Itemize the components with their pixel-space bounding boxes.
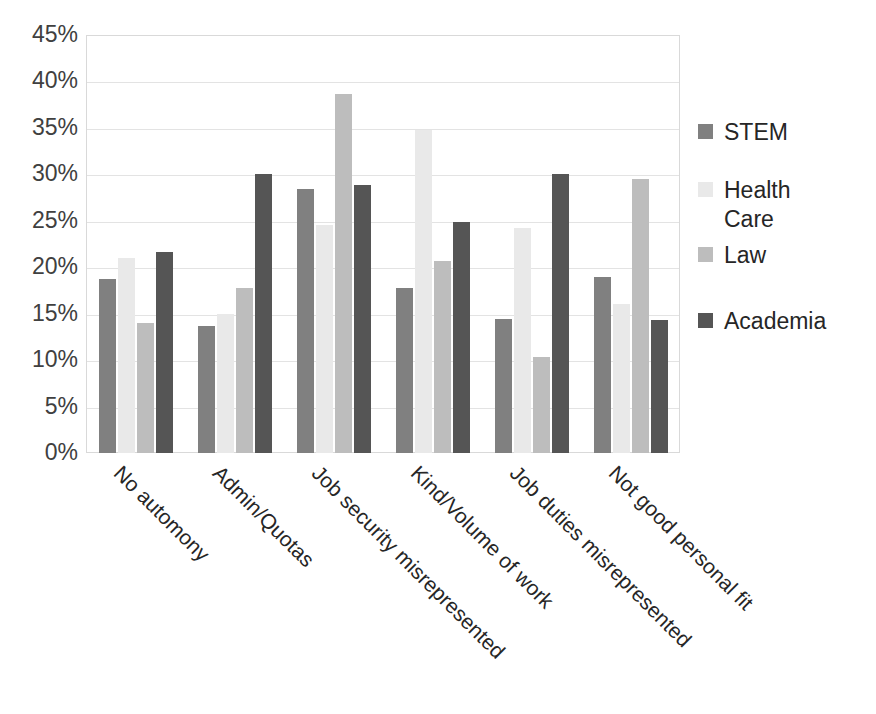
bar[interactable] [632,179,649,453]
bar[interactable] [533,357,550,453]
bar-slot [137,35,154,453]
legend-swatch-icon [698,313,713,328]
bar[interactable] [415,130,432,453]
bar[interactable] [495,319,512,453]
bar-slot [651,35,668,453]
legend-item-academia[interactable]: Academia [698,307,826,336]
bar[interactable] [396,288,413,453]
x-axis-tick-label: Admin/Quotas [208,461,319,572]
legend-item-stem[interactable]: STEM [698,118,788,147]
legend-label: Academia [724,307,826,336]
y-axis-tick-label: 20% [6,255,78,278]
bar-slot [533,35,550,453]
bar-slot [552,35,569,453]
bar[interactable] [297,189,314,453]
x-axis: No automonyAdmin/QuotasJob security misr… [86,453,680,708]
bar-slot [396,35,413,453]
bar-groups [86,35,680,453]
legend-item-law[interactable]: Law [698,241,766,270]
bar[interactable] [335,94,352,453]
legend-item-health-care[interactable]: Health Care [698,176,790,234]
bar-slot [255,35,272,453]
bar[interactable] [236,288,253,453]
bar[interactable] [552,174,569,453]
bar[interactable] [118,258,135,453]
bar[interactable] [514,228,531,453]
y-axis-tick-label: 40% [6,69,78,92]
x-axis-tick-label: Job duties misrepresented [505,461,696,652]
bar-slot [316,35,333,453]
bar-slot [198,35,215,453]
legend-swatch-icon [698,182,713,197]
y-axis-tick-label: 15% [6,302,78,325]
bar-slot [594,35,611,453]
bar[interactable] [255,174,272,453]
bar[interactable] [316,225,333,453]
bar-slot [99,35,116,453]
x-axis-tick-label: No automony [109,461,214,566]
legend-label: Law [724,241,766,270]
bar-slot [613,35,630,453]
bar-slot [434,35,451,453]
y-axis: 45%40%35%30%25%20%15%10%5%0% [0,35,78,453]
bar[interactable] [613,304,630,453]
bar-slot [156,35,173,453]
grouped-bar-chart: 45%40%35%30%25%20%15%10%5%0% No automony… [0,0,876,714]
bar-group [185,35,284,453]
bar-group [383,35,482,453]
legend-label: Health Care [724,176,790,234]
bar-slot [236,35,253,453]
legend-swatch-icon [698,247,713,262]
y-axis-tick-label: 45% [6,23,78,46]
bar-slot [335,35,352,453]
bar-slot [415,35,432,453]
bar-slot [495,35,512,453]
bar-group [284,35,383,453]
y-axis-tick-label: 0% [6,441,78,464]
bar-group [86,35,185,453]
bar[interactable] [137,323,154,453]
y-axis-tick-label: 35% [6,116,78,139]
legend-swatch-icon [698,124,713,139]
bar-slot [632,35,649,453]
bar-slot [354,35,371,453]
y-axis-tick-label: 5% [6,395,78,418]
bar-slot [514,35,531,453]
bar[interactable] [198,326,215,453]
bar[interactable] [453,222,470,453]
legend-label: STEM [724,118,788,147]
bar[interactable] [434,261,451,453]
bar[interactable] [651,320,668,453]
bar-group [482,35,581,453]
bar-slot [297,35,314,453]
y-axis-tick-label: 25% [6,209,78,232]
x-axis-tick-label: Job security misrepresented [307,461,510,664]
y-axis-tick-label: 30% [6,162,78,185]
bar-slot [118,35,135,453]
bar-slot [217,35,234,453]
bar[interactable] [217,314,234,453]
y-axis-tick-label: 10% [6,348,78,371]
bar[interactable] [594,277,611,453]
bar[interactable] [99,279,116,453]
bar[interactable] [354,185,371,453]
bar[interactable] [156,252,173,453]
bar-slot [453,35,470,453]
bar-group [581,35,680,453]
